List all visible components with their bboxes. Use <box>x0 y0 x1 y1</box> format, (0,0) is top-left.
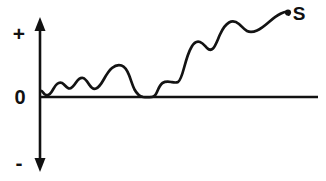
axis-negative-label: - <box>16 151 23 174</box>
figure-background <box>0 0 326 181</box>
series-endpoint-label: S <box>293 3 306 24</box>
axis-positive-label: + <box>13 22 25 45</box>
trend-curve-figure: + 0 - S <box>0 0 326 181</box>
series-endpoint-dot <box>285 9 291 15</box>
axis-origin-label: 0 <box>14 86 25 108</box>
